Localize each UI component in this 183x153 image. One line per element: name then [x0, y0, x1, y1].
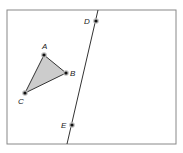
point-label-b: B: [70, 69, 76, 78]
point-label-d: D: [84, 17, 90, 26]
point-a: [42, 53, 45, 56]
geometry-diagram: ABCDE: [0, 0, 183, 153]
point-label-c: C: [18, 97, 24, 106]
diagram-frame: [7, 10, 176, 144]
point-c: [23, 91, 26, 94]
point-label-a: A: [41, 42, 47, 51]
point-b: [64, 71, 67, 74]
point-d: [94, 19, 97, 22]
point-e: [70, 123, 73, 126]
triangle-abc: [25, 55, 66, 93]
point-label-e: E: [61, 121, 67, 130]
